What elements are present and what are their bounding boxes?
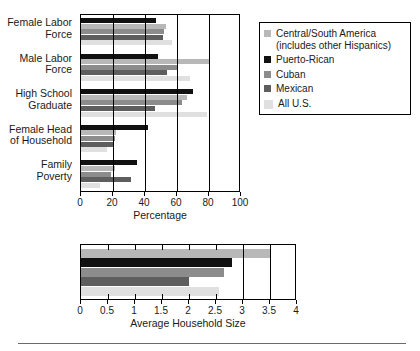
bar <box>81 24 166 29</box>
gridline <box>270 245 271 299</box>
category-label: Female Head of Household <box>0 124 72 147</box>
bar <box>81 287 219 296</box>
bar <box>81 147 107 152</box>
legend-item-puerto-rican[interactable]: Puerto-Rican <box>264 54 405 66</box>
tick-mark <box>208 192 209 196</box>
x-tick-label: 60 <box>170 197 181 208</box>
category-label: Female Labor Force <box>0 17 72 40</box>
gridline <box>135 294 136 299</box>
bar <box>81 65 177 70</box>
bar <box>81 100 182 105</box>
bar <box>81 40 172 45</box>
bar <box>81 166 115 171</box>
legend-item-mexican[interactable]: Mexican <box>264 83 405 95</box>
legend-label: All U.S. <box>278 98 311 110</box>
bar <box>81 70 167 75</box>
gridline <box>162 245 163 250</box>
gridline <box>216 294 217 299</box>
percentage-chart-plot-area <box>80 14 240 192</box>
legend-item-all-us[interactable]: All U.S. <box>264 98 405 110</box>
bar <box>81 183 100 188</box>
footer-rule <box>18 343 406 344</box>
figure: Female Labor ForceMale Labor ForceHigh S… <box>0 0 420 351</box>
x-tick-label: 1.5 <box>154 305 168 316</box>
tick-mark <box>107 300 108 304</box>
x-tick-label: 0.5 <box>100 305 114 316</box>
category-label: Family Poverty <box>0 159 72 182</box>
tick-mark <box>242 300 243 304</box>
tick-mark <box>161 300 162 304</box>
tick-mark <box>144 192 145 196</box>
bar <box>81 249 270 258</box>
bar <box>81 125 148 130</box>
bar <box>81 177 131 182</box>
gridline <box>216 245 217 250</box>
percentage-chart-category-labels: Female Labor ForceMale Labor ForceHigh S… <box>0 14 76 192</box>
x-tick-label: 0 <box>77 197 83 208</box>
x-tick-label: 80 <box>202 197 213 208</box>
bar <box>81 172 111 177</box>
bar <box>81 130 116 135</box>
gridline <box>162 294 163 299</box>
tick-mark <box>80 192 81 196</box>
legend-swatch-icon <box>264 56 271 63</box>
bar <box>81 35 163 40</box>
legend-swatch-icon <box>264 85 271 92</box>
percentage-chart-bars <box>81 15 239 191</box>
bar <box>81 54 158 59</box>
bar <box>81 142 113 147</box>
category-label: Male Labor Force <box>0 53 72 76</box>
x-tick-label: 20 <box>106 197 117 208</box>
household-size-chart-axis-title: Average Household Size <box>130 317 245 329</box>
legend-item-cuban[interactable]: Cuban <box>264 69 405 81</box>
gridline <box>113 15 114 191</box>
legend-label: Central/South America (includes other Hi… <box>276 28 391 51</box>
gridline <box>189 245 190 250</box>
household-size-chart: 00.511.522.533.54 Average Household Size <box>0 236 420 351</box>
legend-swatch-icon <box>264 30 271 37</box>
chart-legend: Central/South America (includes other Hi… <box>259 22 411 115</box>
x-tick-label: 1 <box>131 305 137 316</box>
bar <box>81 258 232 267</box>
percentage-chart: Female Labor ForceMale Labor ForceHigh S… <box>0 0 420 232</box>
bar <box>81 268 224 277</box>
category-label: High School Graduate <box>0 88 72 111</box>
tick-mark <box>296 300 297 304</box>
bar <box>81 95 187 100</box>
gridline <box>189 294 190 299</box>
tick-mark <box>269 300 270 304</box>
bar <box>81 160 137 165</box>
bar <box>81 106 155 111</box>
bar <box>81 277 189 286</box>
x-tick-label: 0 <box>77 305 83 316</box>
x-tick-label: 3.5 <box>262 305 276 316</box>
x-tick-label: 4 <box>293 305 299 316</box>
gridline <box>145 15 146 191</box>
gridline <box>177 15 178 191</box>
legend-swatch-icon <box>264 100 273 109</box>
legend-label: Mexican <box>276 83 313 95</box>
bar <box>81 76 190 81</box>
x-tick-label: 2 <box>185 305 191 316</box>
gridline <box>108 294 109 299</box>
tick-mark <box>80 300 81 304</box>
legend-label: Cuban <box>276 69 305 81</box>
household-size-chart-plot-area <box>80 244 296 300</box>
x-tick-label: 3 <box>239 305 245 316</box>
bar <box>81 29 164 34</box>
tick-mark <box>112 192 113 196</box>
tick-mark <box>134 300 135 304</box>
legend-swatch-icon <box>264 71 271 78</box>
tick-mark <box>240 192 241 196</box>
x-tick-label: 2.5 <box>208 305 222 316</box>
bar <box>81 136 115 141</box>
gridline <box>135 245 136 250</box>
tick-mark <box>188 300 189 304</box>
gridline <box>209 15 210 191</box>
gridline <box>243 245 244 299</box>
legend-item-central-south-america[interactable]: Central/South America (includes other Hi… <box>264 28 405 51</box>
gridline <box>108 245 109 250</box>
x-tick-label: 40 <box>138 197 149 208</box>
legend-label: Puerto-Rican <box>276 54 334 66</box>
tick-mark <box>215 300 216 304</box>
